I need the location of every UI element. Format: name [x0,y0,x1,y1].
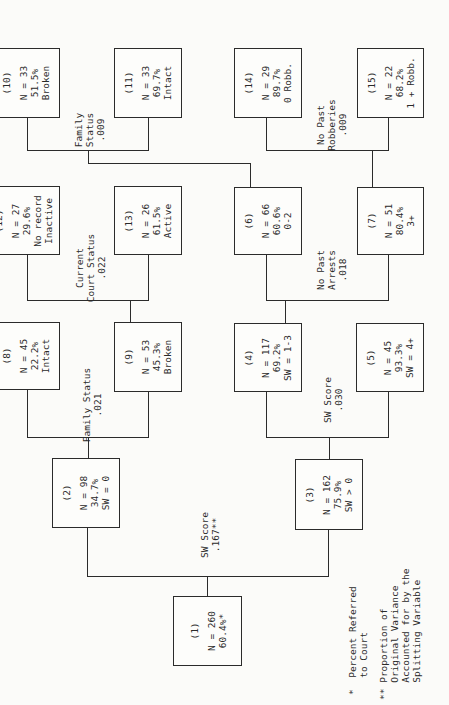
connector [266,300,389,301]
node-line: N = 29 [260,63,271,103]
connector [328,530,329,576]
node-id: (3) [304,474,315,514]
node-line: 3+ [405,204,416,238]
node-id: (1) [188,611,199,651]
split-label-court-status-022: Current Court Status .022 [74,234,107,303]
node-id: (13) [123,203,134,237]
node-line: No record [32,195,43,246]
node-id: (7) [366,204,377,238]
node-line: Broken [40,66,51,100]
node-line: 1 + Robb. [405,57,416,108]
node-line: N = 66 [260,204,271,238]
split-value: .022 [96,234,107,303]
node-13: (13) N = 26 61.5% Active [114,186,182,255]
connector [388,118,389,150]
split-variable: Current [74,234,85,303]
connector [88,150,89,163]
node-id: (2) [61,476,72,510]
split-variable: SW Score [199,512,210,558]
node-14: (14) N = 29 89.7% 0 Robb. [234,48,302,118]
split-variable: Family [73,113,84,147]
node-line: 75.9% [332,474,343,514]
node-line: 60.4%* [216,611,227,651]
connector [27,255,28,300]
connector [207,576,208,596]
split-variable: No Past [315,250,326,290]
split-label-family-status-009: Family Status .009 [73,113,106,147]
node-line: SW = 1-3 [282,335,293,381]
node-6: (6) N = 66 60.6% 0-2 [234,187,302,255]
node-10: (10) N = 33 51.5% Broken [0,48,60,118]
node-line: Intact [162,66,173,100]
node-line: 45.3% [151,340,162,374]
split-variable: Robberies [326,99,337,150]
connector [266,392,267,437]
node-line: 60.6% [271,204,282,238]
footnote-line: * Percent Referred [347,586,358,695]
footnote-line: Original Variance [389,568,400,700]
split-value: .009 [337,99,348,150]
connector [388,255,389,300]
node-line: 69.2% [271,335,282,381]
footnote-proportion-variance: ** Proportion of Original Variance Accou… [378,568,422,700]
node-line: 22.2% [29,339,40,373]
split-variable: Arrests [326,250,337,290]
node-9: (9) N = 53 45.3% Broken [114,322,182,392]
node-line: 34.7% [89,476,100,510]
connector [148,118,149,150]
node-line: Broken [162,340,173,374]
node-id: (6) [243,204,254,238]
node-line: 69.7% [151,66,162,100]
node-8: (8) N = 45 22.2% Intact [0,322,60,390]
node-2: (2) N = 98 34.7% SW = 0 [52,458,120,528]
split-variable: Court Status [85,234,96,303]
split-variable: Family Status [81,368,92,442]
node-id: (15) [366,57,377,108]
split-value: .167** [210,512,221,558]
node-line: N = 33 [140,66,151,100]
footnote-line: Splitting Variable [411,568,422,700]
node-id: (8) [1,339,12,373]
node-line: N = 45 [18,339,29,373]
node-line: N = 117 [260,335,271,381]
node-line: Inactive [43,195,54,246]
node-line: SW = 4+ [404,337,415,377]
node-line: 93.3% [393,337,404,377]
split-label-sw-score-030: SW Score .030 [322,377,344,423]
connector [372,150,373,187]
node-line: N = 98 [78,476,89,510]
connector [87,528,88,576]
connector [27,118,28,150]
split-variable: Status [84,113,95,147]
connector [329,437,330,459]
connector [266,437,389,438]
node-line: 61.5% [151,203,162,237]
split-value: .009 [95,113,106,147]
node-id: (9) [123,340,134,374]
split-value: .030 [333,377,344,423]
connector [27,150,149,151]
node-id: (11) [123,66,134,100]
connector [250,163,251,187]
footnote-line: ** Proportion of [378,568,389,700]
node-15: (15) N = 22 68.2% 1 + Robb. [357,48,424,118]
split-value: .018 [337,250,348,290]
node-line: 0-2 [282,204,293,238]
node-line: Intact [40,339,51,373]
node-11: (11) N = 33 69.7% Intact [114,48,182,118]
node-line: N = 53 [140,340,151,374]
footnote-line: to Court [358,586,369,695]
split-variable: SW Score [322,377,333,423]
footnote-line: Accounted for by the [400,568,411,700]
connector [130,300,131,322]
node-line: 80.4% [394,204,405,238]
node-7: (7) N = 51 80.4% 3+ [357,187,424,255]
node-line: N = 22 [383,57,394,108]
node-line: Active [162,203,173,237]
node-id: (14) [243,63,254,103]
connector [27,390,28,437]
split-label-sw-score-167: SW Score .167** [199,512,221,558]
node-line: N = 260 [205,611,216,651]
node-line: SW > 0 [343,474,354,514]
footnote-percent-referred: * Percent Referred to Court [347,586,369,695]
